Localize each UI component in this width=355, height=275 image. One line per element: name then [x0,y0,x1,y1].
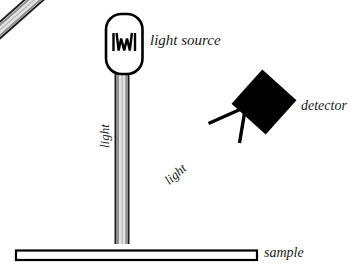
label-light-incident-beam: light [98,124,111,148]
reflected-beam [0,0,91,66]
light-source-lamp[interactable] [106,14,143,74]
label-sample: sample [264,246,304,260]
incident-beam [115,72,130,244]
sample-substrate[interactable] [16,251,257,261]
label-detector: detector [301,99,347,113]
label-light-source: light source [150,33,221,48]
beam-arrowhead-icon [209,107,246,143]
optical-setup-diagram: light source detector sample light light [0,0,355,275]
